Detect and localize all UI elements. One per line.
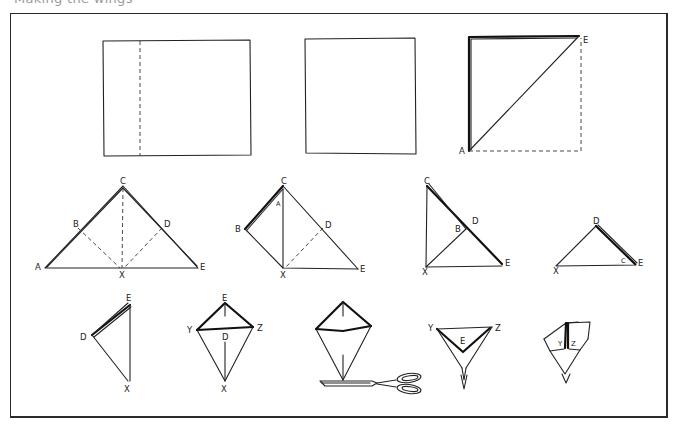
label-e: E [583,35,588,45]
step-1-rectangle [103,40,251,156]
label-c: C [621,257,626,265]
label-x: X [553,266,559,276]
step-8-cone-side: E D X [80,293,131,394]
label-e: E [638,258,643,268]
label-y: Y [186,325,193,335]
label-e: E [360,264,365,274]
label-e: E [200,262,205,272]
label-x: X [422,267,428,277]
step-4-triangle-creases: C B D A E X [35,176,205,280]
label-d: D [325,220,332,230]
label-c: C [281,176,287,186]
label-b: B [235,224,241,234]
label-d: D [472,216,479,226]
step-3-diagonal-fold: A E [459,35,588,156]
label-y: Y [427,323,434,333]
step-2-square [305,38,416,154]
label-x: X [119,270,125,280]
label-b: B [73,219,79,229]
label-z: Z [257,323,263,333]
label-x: X [221,384,227,394]
label-b: B [455,224,461,234]
label-a: A [276,200,281,208]
label-d: D [222,332,229,342]
label-z: Z [495,323,501,333]
label-a: A [459,146,465,156]
label-x: X [124,384,130,394]
step-6-both-flaps: C B D E X [422,176,510,277]
label-e: E [460,336,465,346]
label-a: A [35,262,41,272]
step-10-kite-scissors [316,302,422,395]
step-12-finished-wing: Y Z [544,322,590,383]
label-e: E [126,293,131,303]
folding-instructions-diagram: A E C B D A E X C A B D E X C [0,0,682,426]
scissors-icon [320,372,422,395]
label-c: C [424,176,430,186]
label-e: E [505,258,510,268]
label-c: C [120,176,126,186]
step-7-small-triangle: D C E X [553,216,643,276]
label-e: E [222,293,227,303]
label-y: Y [557,340,563,348]
label-d: D [80,332,87,342]
step-9-kite: E Y Z D X [186,293,263,394]
step-11-inverted-triangle: Y Z E [427,323,501,389]
label-x: X [280,270,286,280]
label-d: D [164,219,171,229]
label-z: Z [571,340,576,348]
label-d: D [593,216,600,226]
step-5-left-flap: C A B D E X [235,176,365,280]
